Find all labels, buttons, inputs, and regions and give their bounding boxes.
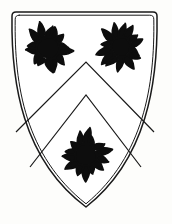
escutcheon-drawing — [0, 0, 172, 224]
coat-of-arms-image: Coat of Arms Argent, a chevron between t… — [0, 0, 172, 224]
